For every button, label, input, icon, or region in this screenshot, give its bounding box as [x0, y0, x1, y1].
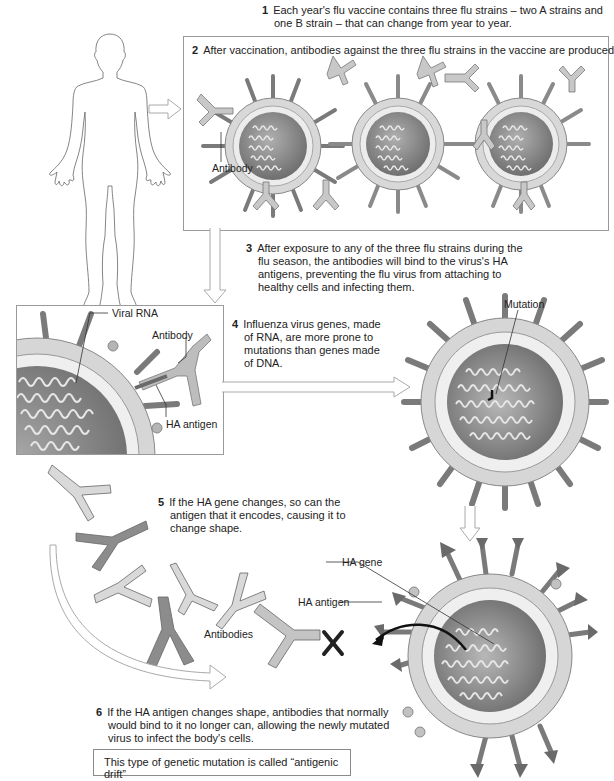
step-description: After exposure to any of the three flu s…	[257, 242, 522, 293]
step-number: 4	[232, 318, 238, 330]
ha-gene-label: HA gene	[342, 556, 382, 568]
step-1-text: 1Each year's flu vaccine contains three …	[262, 4, 614, 30]
arrow-right-icon	[148, 98, 182, 120]
ha-antigen-label-mutated: HA antigen	[298, 596, 349, 608]
step-description: Influenza virus genes, made of RNA, are …	[243, 318, 381, 369]
step-description: If the HA antigen changes shape, antibod…	[107, 706, 389, 744]
step-number: 3	[246, 242, 252, 254]
step-description: After vaccination, antibodies against th…	[203, 44, 614, 56]
antibody-label-panel2: Antibody	[212, 162, 253, 174]
arrow-right-icon	[222, 376, 412, 398]
human-body-outline	[45, 30, 175, 320]
mutated-virus-illustration	[400, 290, 610, 510]
step-number: 1	[262, 4, 268, 16]
step-number: 6	[96, 706, 102, 718]
vaccine-strains-illustration	[183, 56, 607, 226]
antigenic-drift-callout: This type of genetic mutation is called …	[93, 749, 351, 776]
antibodies-label: Antibodies	[204, 628, 253, 640]
step-4-text: 4Influenza virus genes, made of RNA, are…	[232, 318, 384, 370]
step-number: 2	[192, 44, 198, 56]
step-6-text: 6If the HA antigen changes shape, antibo…	[96, 706, 398, 745]
step-description: Each year's flu vaccine contains three f…	[273, 4, 603, 29]
step-3-text: 3After exposure to any of the three flu …	[246, 242, 528, 294]
label-leader-lines	[16, 305, 226, 455]
curved-arrow-icon	[50, 545, 230, 695]
antibody-leader-line	[220, 132, 222, 162]
arrow-down-icon	[203, 228, 227, 304]
mutation-label: Mutation	[504, 298, 544, 310]
